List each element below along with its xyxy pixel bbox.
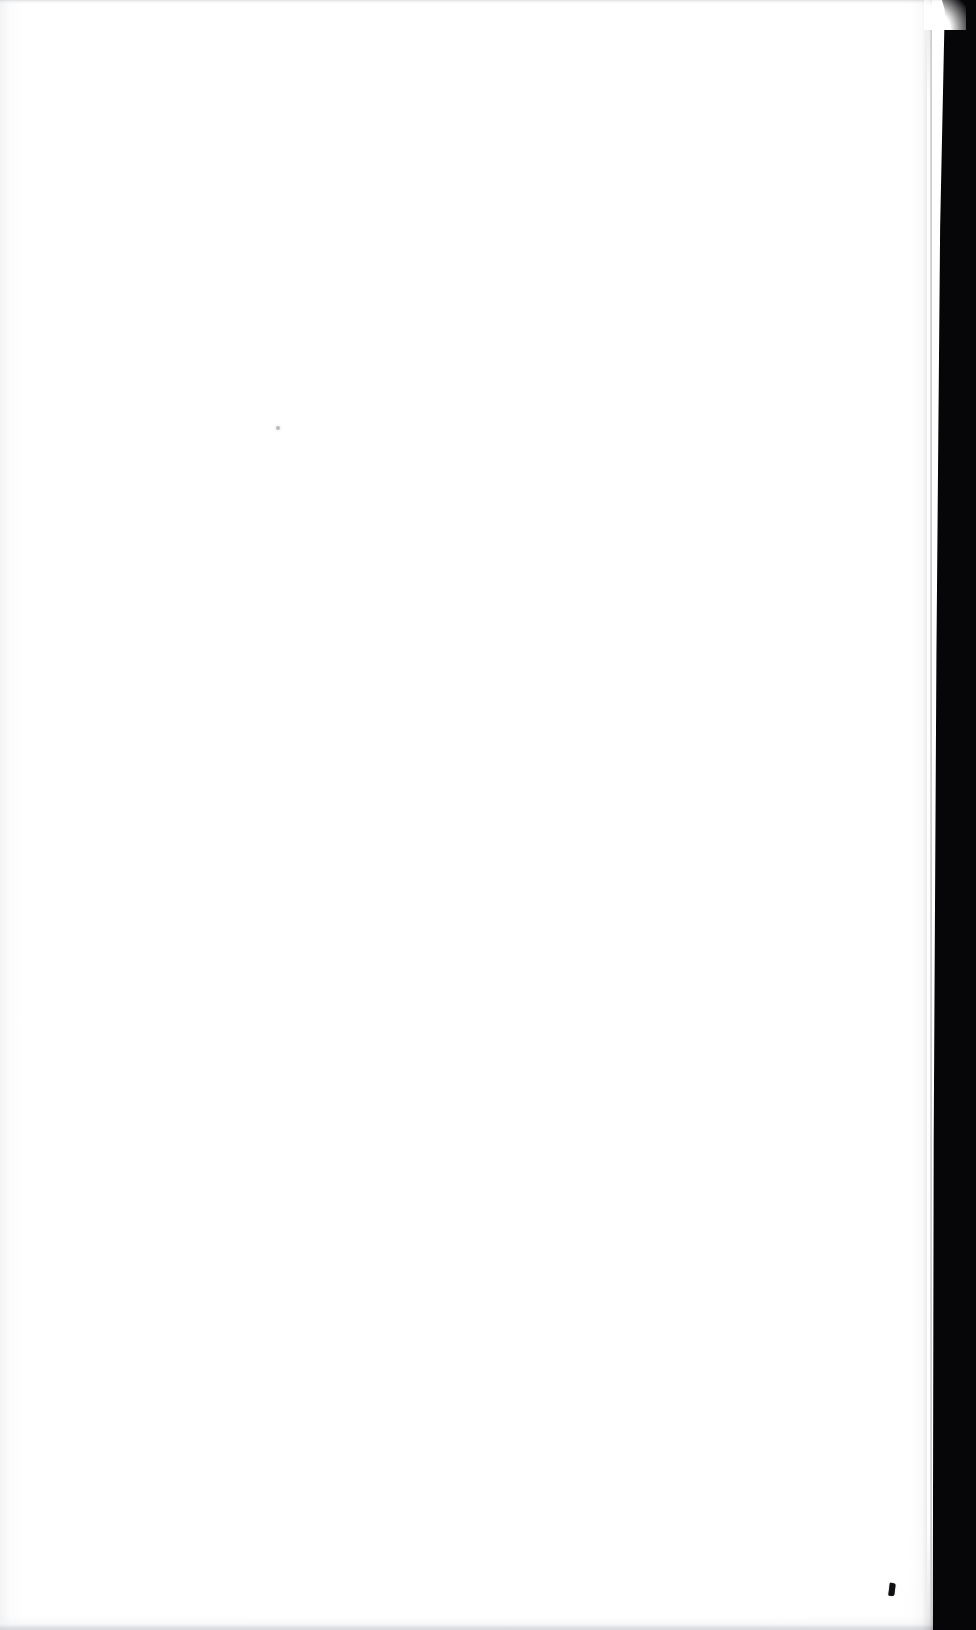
page-edge-highlight: [927, 4, 930, 1624]
scanned-page: Blank scanned page: [0, 0, 976, 1630]
top-scan-band: [0, 0, 976, 4]
bottom-scan-band: [0, 1616, 976, 1630]
page-surface: [0, 0, 976, 1630]
gutter-corner-highlight: [924, 0, 966, 30]
left-margin-shading: [0, 0, 26, 1630]
speck-mid-left: [276, 426, 280, 430]
